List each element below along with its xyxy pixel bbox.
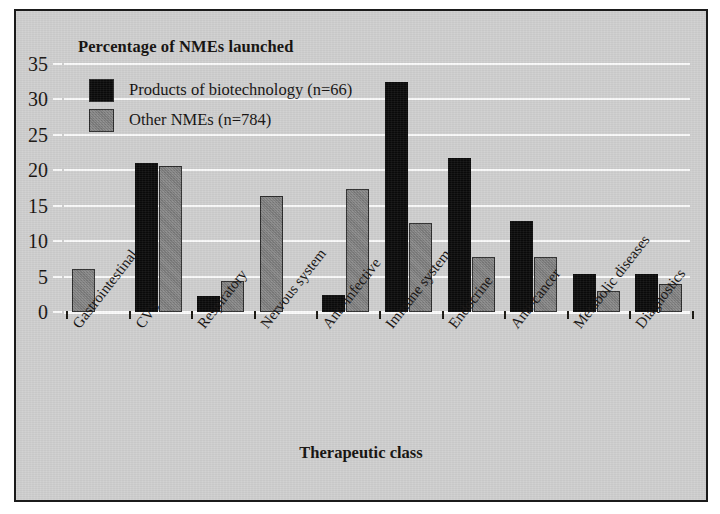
y-axis-tick xyxy=(53,240,62,242)
x-axis-tick xyxy=(567,311,569,319)
y-axis-tick-label: 5 xyxy=(38,266,48,286)
x-axis-tick xyxy=(379,311,381,319)
legend-item[interactable]: Products of biotechnology (n=66) xyxy=(89,75,379,105)
bar-biotech[interactable] xyxy=(385,82,408,312)
bar-biotech[interactable] xyxy=(135,163,158,312)
x-axis-tick xyxy=(316,311,318,319)
legend-swatch-other xyxy=(89,109,114,132)
figure-bar-chart: Percentage of NMEs launched 051015202530… xyxy=(0,0,720,514)
y-axis-tick-label: 15 xyxy=(28,195,48,215)
x-axis-tick xyxy=(129,311,131,319)
y-axis-tick-label: 35 xyxy=(28,54,48,74)
chart-title: Percentage of NMEs launched xyxy=(78,37,294,57)
legend-swatch-biotech xyxy=(89,79,114,102)
y-axis-tick-label: 0 xyxy=(38,302,48,322)
y-axis-tick xyxy=(53,311,62,313)
legend-label: Products of biotechnology (n=66) xyxy=(129,82,352,99)
y-axis-tick xyxy=(53,276,62,278)
bar-biotech[interactable] xyxy=(448,158,471,312)
y-axis-tick xyxy=(53,205,62,207)
x-axis-tick xyxy=(254,311,256,319)
x-axis-title: Therapeutic class xyxy=(16,443,706,463)
y-axis-tick xyxy=(53,98,62,100)
y-axis-tick xyxy=(53,134,62,136)
y-axis-tick-label: 30 xyxy=(28,89,48,109)
chart-legend: Products of biotechnology (n=66)Other NM… xyxy=(89,75,379,135)
y-axis-tick xyxy=(53,63,62,65)
x-axis-tick xyxy=(191,311,193,319)
legend-label: Other NMEs (n=784) xyxy=(129,112,271,129)
x-axis-tick xyxy=(692,311,694,319)
bar-other[interactable] xyxy=(159,166,182,312)
x-axis-tick xyxy=(442,311,444,319)
y-axis-tick-label: 25 xyxy=(28,124,48,144)
x-axis-tick xyxy=(504,311,506,319)
y-axis-tick xyxy=(53,169,62,171)
x-axis-tick xyxy=(66,311,68,319)
y-axis-tick-label: 10 xyxy=(28,231,48,251)
x-axis-tick xyxy=(629,311,631,319)
chart-panel: Percentage of NMEs launched 051015202530… xyxy=(14,9,708,502)
y-axis-tick-label: 20 xyxy=(28,160,48,180)
legend-item[interactable]: Other NMEs (n=784) xyxy=(89,105,379,135)
